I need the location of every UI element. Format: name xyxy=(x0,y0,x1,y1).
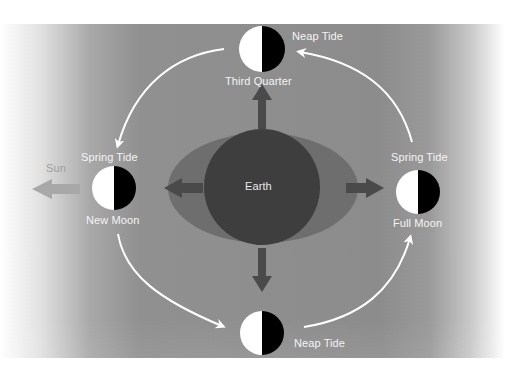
sun-arrow-icon xyxy=(32,179,80,199)
moon-left xyxy=(92,166,136,210)
orbit-arrow-bottom-right-icon xyxy=(304,238,410,327)
orbit-arrow-top-right-icon xyxy=(300,52,412,142)
moon-right xyxy=(396,170,440,214)
neap-tide-top-label: Neap Tide xyxy=(292,30,343,42)
arrow-down-icon xyxy=(252,248,272,292)
moon-bottom xyxy=(240,311,284,355)
orbit-arrow-bottom-left-icon xyxy=(118,234,222,326)
moon-top xyxy=(239,26,285,72)
orbit-arrow-top-left-icon xyxy=(118,49,224,145)
new-moon-label: New Moon xyxy=(86,214,139,226)
full-moon-label: Full Moon xyxy=(393,217,442,229)
sun-label: Sun xyxy=(46,162,66,174)
spring-tide-left-label: Spring Tide xyxy=(81,151,138,163)
neap-tide-bottom-label: Neap Tide xyxy=(294,337,345,349)
arrow-up-icon xyxy=(252,84,272,129)
third-quarter-label: Third Quarter xyxy=(225,75,292,87)
spring-tide-right-label: Spring Tide xyxy=(391,151,448,163)
earth-label: Earth xyxy=(245,180,272,192)
